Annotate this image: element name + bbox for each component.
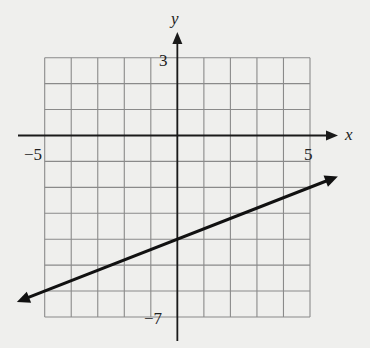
x-axis-label: x — [345, 126, 353, 143]
axes — [18, 32, 338, 341]
x-tick-label-max: 5 — [304, 146, 313, 163]
y-tick-label-max: 3 — [159, 52, 168, 69]
y-tick-label-min: −7 — [144, 310, 162, 327]
coordinate-plane — [0, 0, 370, 348]
graph-figure: ) y x −5 5 3 −7 — [0, 0, 370, 348]
y-axis-label: y — [171, 10, 179, 27]
x-tick-label-min: −5 — [24, 146, 42, 163]
